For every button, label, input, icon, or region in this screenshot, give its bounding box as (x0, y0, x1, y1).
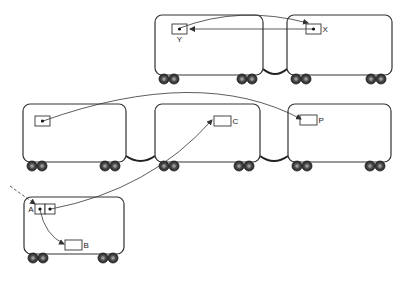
cell-label-X: X (323, 25, 329, 34)
wheel-hub (163, 165, 166, 168)
pointer-cell-A1 (35, 204, 45, 214)
train-car-top-right (287, 15, 392, 84)
cell-box (214, 116, 231, 126)
cell-box (65, 240, 82, 250)
car-body (155, 15, 263, 75)
train-car-mid-left (23, 104, 126, 171)
cell-label-C: C (233, 117, 239, 126)
train-pointer-diagram: YXCPAB (0, 0, 407, 281)
cell-label-P: P (319, 116, 324, 125)
cell-label-B: B (84, 241, 89, 250)
wheel-hub (306, 165, 309, 168)
wheel-hub (296, 165, 299, 168)
wheel-hub (41, 165, 44, 168)
wheel-hub (380, 78, 383, 81)
wheel-hub (114, 165, 117, 168)
wheel-hub (163, 78, 166, 81)
wheel-hub (31, 165, 34, 168)
wheel-hub (370, 78, 373, 81)
wheel-hub (42, 257, 45, 260)
pointer-cell-B (65, 240, 82, 250)
cell-label-Y: Y (177, 35, 183, 44)
arrow-in-to-A (10, 186, 35, 204)
coupling-link (260, 156, 288, 161)
coupling-link (263, 69, 287, 74)
car-body (288, 104, 391, 162)
car-body (287, 15, 392, 75)
pointer-cell-A2 (45, 204, 55, 214)
wheel-hub (238, 165, 241, 168)
wheel-hub (305, 78, 308, 81)
diagram-stage: YXCPAB (0, 0, 407, 281)
wheel-hub (379, 165, 382, 168)
wheel-hub (173, 78, 176, 81)
train-car-mid-right (288, 104, 391, 171)
train-car-mid-center (155, 104, 260, 171)
pointer-cell-mid (35, 116, 50, 126)
wheel-hub (112, 257, 115, 260)
cars (23, 15, 392, 263)
wheel-hub (251, 78, 254, 81)
car-body (155, 104, 260, 162)
wheel-hub (295, 78, 298, 81)
car-body (23, 104, 126, 162)
pointer-cell-C (214, 116, 231, 126)
cell-label-A: A (28, 205, 34, 214)
wheel-hub (173, 165, 176, 168)
cell-box (300, 115, 317, 125)
wheel-hub (102, 257, 105, 260)
wheel-hub (369, 165, 372, 168)
wheel-hub (32, 257, 35, 260)
wheel-hub (248, 165, 251, 168)
wheel-hub (241, 78, 244, 81)
train-car-top-left (155, 15, 263, 84)
pointer-cell-P (300, 115, 317, 125)
wheel-hub (104, 165, 107, 168)
coupling-link (126, 156, 155, 161)
pointer-cell-Y (172, 24, 187, 34)
